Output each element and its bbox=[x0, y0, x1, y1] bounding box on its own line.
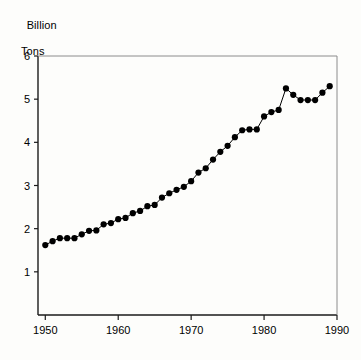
data-point bbox=[283, 85, 289, 91]
data-point bbox=[152, 202, 158, 208]
x-tick-label: 1950 bbox=[33, 324, 57, 336]
data-point bbox=[239, 127, 245, 133]
data-point bbox=[261, 113, 267, 119]
series-markers bbox=[42, 83, 333, 248]
data-point bbox=[268, 109, 274, 115]
data-point bbox=[210, 157, 216, 163]
y-tick-label: 5 bbox=[24, 93, 30, 105]
data-point bbox=[122, 215, 128, 221]
y-tick-label: 3 bbox=[24, 180, 30, 192]
data-point bbox=[108, 220, 114, 226]
data-point bbox=[93, 227, 99, 233]
data-point bbox=[276, 107, 282, 113]
y-tick-label: 2 bbox=[24, 223, 30, 235]
data-point bbox=[71, 235, 77, 241]
data-point bbox=[297, 97, 303, 103]
line-chart-plot: 123456 19501960197019801990 bbox=[0, 0, 361, 360]
y-axis-ticks: 123456 bbox=[24, 50, 38, 278]
data-point bbox=[188, 178, 194, 184]
data-point bbox=[232, 134, 238, 140]
data-point bbox=[290, 92, 296, 98]
x-tick-label: 1990 bbox=[325, 324, 349, 336]
data-point bbox=[225, 143, 231, 149]
data-point bbox=[115, 216, 121, 222]
data-point bbox=[246, 126, 252, 132]
data-point bbox=[173, 187, 179, 193]
data-point bbox=[319, 90, 325, 96]
data-point bbox=[166, 190, 172, 196]
data-point bbox=[195, 169, 201, 175]
data-point bbox=[305, 97, 311, 103]
data-point bbox=[86, 228, 92, 234]
chart-container: Billion Tons 123456 19501960197019801990 bbox=[0, 0, 361, 360]
series-line bbox=[45, 86, 329, 245]
y-tick-label: 6 bbox=[24, 50, 30, 62]
x-axis-ticks: 19501960197019801990 bbox=[33, 315, 349, 336]
data-point bbox=[144, 203, 150, 209]
data-point bbox=[79, 231, 85, 237]
data-point bbox=[42, 242, 48, 248]
data-point bbox=[159, 194, 165, 200]
data-point bbox=[49, 238, 55, 244]
data-point bbox=[203, 165, 209, 171]
x-tick-label: 1980 bbox=[252, 324, 276, 336]
data-point bbox=[57, 235, 63, 241]
data-point bbox=[254, 126, 260, 132]
data-point bbox=[101, 221, 107, 227]
data-point bbox=[217, 149, 223, 155]
data-point bbox=[181, 184, 187, 190]
y-tick-label: 1 bbox=[24, 266, 30, 278]
x-tick-label: 1970 bbox=[179, 324, 203, 336]
data-point bbox=[327, 83, 333, 89]
data-point bbox=[130, 210, 136, 216]
y-tick-label: 4 bbox=[24, 136, 30, 148]
data-point bbox=[137, 208, 143, 214]
x-tick-label: 1960 bbox=[106, 324, 130, 336]
data-point bbox=[64, 235, 70, 241]
data-point bbox=[312, 97, 318, 103]
